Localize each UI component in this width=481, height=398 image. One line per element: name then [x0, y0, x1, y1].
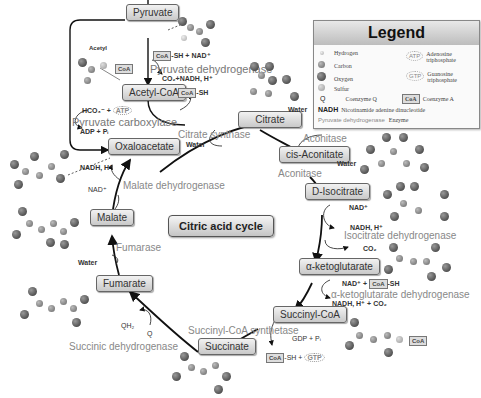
- cofactor-water-aconitate: Water: [288, 106, 307, 113]
- coa-box: CoA: [153, 51, 171, 61]
- legend-item-carbon: Carbon: [318, 61, 352, 69]
- legend-label: Coenzyme Q: [345, 96, 377, 102]
- cofactor-water-fumarate: Water: [78, 259, 97, 266]
- enzyme-pyruvate-carboxylase: Pyruvate carboxylase: [72, 116, 177, 128]
- atp-icon: ATP: [113, 106, 132, 115]
- cofactor-adp-pi: ADP + Pᵢ: [80, 128, 108, 135]
- enzyme-succinyl-coa-synthetase: Succinyl-CoA synthetase: [188, 325, 299, 336]
- legend-item-sulfur: Sulfur: [318, 84, 349, 92]
- cofactor-co2-nadh: CO₂+NADH, H⁺: [162, 75, 213, 83]
- enzyme-aconitase-2: Aconitase: [278, 168, 322, 179]
- cofactor-hco3-atp: HCO₃⁻ + ATP: [82, 107, 132, 115]
- node-acetyl-coa: Acetyl-CoA: [122, 84, 186, 101]
- legend-title: Legend: [314, 21, 479, 45]
- legend-item-oxygen: Oxygen: [317, 72, 353, 82]
- enzyme-malate-dehydrogenase: Malate dehydrogenase: [123, 180, 225, 191]
- enzyme-fumarase: Fumarase: [116, 242, 161, 253]
- cofactor-text: -SH: [388, 280, 400, 287]
- legend-symbol: Pyruvate dehydrogenase: [318, 117, 385, 123]
- node-succinyl-coa: Succinyl-CoA: [273, 306, 347, 323]
- coa-box: CoA: [409, 336, 427, 346]
- cofactor-qh2: QH₂: [121, 322, 134, 329]
- cofactor-coa-sh-gtp: CoA-SH + GTP: [266, 353, 325, 363]
- node-malate: Malate: [90, 209, 134, 226]
- legend-symbol: NADH: [318, 106, 338, 113]
- cofactor-text: -SH + NAD⁺: [171, 52, 210, 59]
- enzyme-akg-dehydrogenase: α-ketoglutarate dehydrogenase: [331, 289, 470, 300]
- diagram-title: Citric acid cycle: [168, 215, 274, 237]
- cofactor-text: -SH +: [284, 354, 302, 361]
- node-a-ketoglutarate: α-ketoglutarate: [299, 258, 380, 275]
- legend-item-coa: CoACoenzyme A: [402, 94, 454, 104]
- legend-item-hydrogen: Hydrogen: [320, 50, 358, 56]
- coa-box: CoA: [369, 279, 387, 289]
- cofactor-nad-malate: NAD⁺: [88, 186, 107, 194]
- cofactor-succinyl-coa-molecule: CoA: [409, 336, 427, 346]
- coa-box: CoA: [178, 88, 196, 98]
- legend-label: Oxygen: [334, 76, 353, 82]
- gtp-icon: GTP: [304, 353, 324, 362]
- node-pyruvate: Pyruvate: [126, 4, 179, 21]
- cofactor-co2-isocitrate: CO₂: [363, 245, 377, 252]
- cofactor-coa-sh: CoA-SH: [178, 88, 208, 98]
- cofactor-text: -SH: [196, 89, 208, 96]
- legend-item-nadh: NADHNicotinamide adenine dinucleotide: [318, 106, 425, 113]
- legend-item-atp: ATPAdenosine triphosphate: [406, 51, 466, 63]
- legend-label: Guanosine triphosphate: [427, 71, 467, 83]
- enzyme-citrate-synthase: Citrate synthase: [178, 129, 250, 140]
- node-fumarate: Fumarate: [96, 275, 153, 292]
- cofactor-water-isocitrate: Water: [337, 160, 356, 167]
- cofactor-water-citrate: Water: [186, 141, 205, 148]
- hydrogen-atom-icon: [320, 51, 324, 55]
- legend-label: Adenosine triphosphate: [426, 51, 466, 63]
- atp-icon: ATP: [406, 51, 423, 61]
- cofactor-nadh-malate: NADH, H⁺: [80, 164, 113, 172]
- coa-box: CoA: [115, 64, 133, 74]
- cofactor-nad-isocitrate: NAD⁺: [349, 204, 368, 212]
- legend-label: Nicotinamide adenine dinucleotide: [341, 107, 425, 113]
- enzyme-aconitase-1: Aconitase: [303, 133, 347, 144]
- node-oxaloacetate: Oxaloacetate: [108, 138, 180, 155]
- cofactor-text: HCO₃⁻ +: [82, 107, 111, 114]
- legend-label: Hydrogen: [334, 50, 358, 56]
- node-citrate: Citrate: [238, 111, 302, 128]
- legend-label: Coenzyme A: [423, 96, 454, 102]
- coa-box: CoA: [266, 353, 284, 363]
- carbon-atom-icon: [318, 61, 325, 68]
- cofactor-text: NAD⁺ +: [342, 280, 367, 287]
- cofactor-gdp-pi: GDP + Pᵢ: [292, 335, 321, 342]
- cofactor-nadh-co2-akg: NADH, H⁺ + CO₂: [332, 300, 387, 308]
- enzyme-succinic-dehydrogenase: Succinic dehydrogenase: [69, 341, 178, 352]
- cofactor-acetyl-coa: CoA: [115, 64, 133, 74]
- sulfur-atom-icon: [318, 84, 325, 91]
- gtp-icon: GTP: [406, 71, 424, 81]
- cofactor-nad-coa-akg: NAD⁺ + CoA-SH: [342, 279, 400, 289]
- legend-panel: Legend Hydrogen Carbon Oxygen Sulfur QCo…: [313, 20, 480, 129]
- legend-item-gtp: GTPGuanosine triphosphate: [406, 71, 467, 83]
- cofactor-coa-sh-nad: CoA-SH + NAD⁺: [153, 51, 211, 61]
- cofactor-nadh-isocitrate: NADH, H⁺: [350, 224, 383, 232]
- legend-item-enzyme: Pyruvate dehydrogenaseEnzyme: [318, 117, 408, 123]
- legend-item-coenzyme-q: QCoenzyme Q: [320, 95, 377, 102]
- legend-symbol: Q: [320, 95, 325, 102]
- label-acetyl: Acetyl: [89, 45, 107, 51]
- legend-label: Enzyme: [389, 117, 409, 123]
- node-succinate: Succinate: [198, 338, 256, 355]
- node-d-isocitrate: D-Isocitrate: [305, 183, 370, 200]
- legend-label: Carbon: [334, 63, 352, 69]
- cofactor-q: Q: [147, 330, 152, 337]
- coa-box: CoA: [402, 94, 420, 104]
- oxygen-atom-icon: [317, 72, 326, 81]
- legend-label: Sulfur: [334, 86, 349, 92]
